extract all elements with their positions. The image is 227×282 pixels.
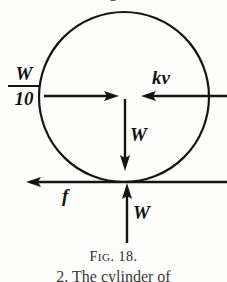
label-weight: W xyxy=(130,125,147,144)
caption-number: 18. xyxy=(118,249,137,264)
figure-caption: FIG. 18. xyxy=(0,249,227,265)
force-diagram xyxy=(0,0,227,282)
driving-force-denominator: 10 xyxy=(4,89,44,108)
fraction-bar xyxy=(8,85,40,87)
page-text-below-fragment: 2. The cylinder of xyxy=(0,268,227,282)
label-driving-force: W 10 xyxy=(4,64,44,108)
label-resistance: kv xyxy=(152,68,170,87)
label-normal-reaction: W xyxy=(133,203,150,222)
caption-smallcaps: IG xyxy=(98,251,111,263)
label-friction: f xyxy=(62,186,68,205)
figure-page: p W 10 kv W f W FIG. 18. 2. The cylinder… xyxy=(0,0,227,282)
driving-force-numerator: W xyxy=(4,64,44,84)
